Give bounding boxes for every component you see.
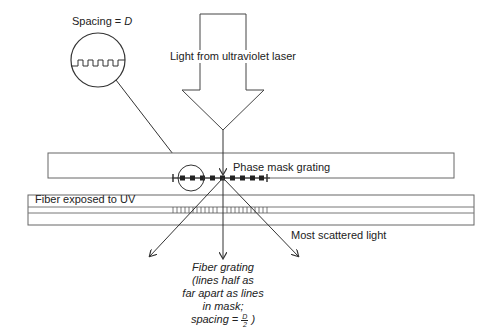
laser-label: Light from ultraviolet laser — [170, 50, 296, 63]
scattered-light-label: Most scattered light — [291, 229, 386, 242]
caption-close-paren: ) — [251, 313, 255, 325]
spacing-label: Spacing = D — [72, 15, 132, 28]
spacing-text: Spacing = — [72, 15, 124, 27]
caption-line-2: (lines half as — [170, 274, 276, 287]
caption-line-1: Fiber grating — [170, 261, 276, 274]
magnifier-circle — [71, 33, 125, 87]
fraction: D2 — [241, 313, 248, 328]
laser-arrow — [182, 14, 264, 130]
caption-line-4: in mask; — [170, 300, 276, 313]
fraction-denominator: 2 — [241, 321, 248, 328]
caption-line-3: far apart as lines — [170, 287, 276, 300]
caption-line-5: spacing = D2 ) — [170, 313, 276, 328]
phase-mask-label: Phase mask grating — [233, 161, 330, 174]
fiber-label: Fiber exposed to UV — [35, 193, 135, 206]
light-beams — [150, 130, 298, 258]
spacing-variable: D — [124, 15, 132, 27]
caption-spacing-text: spacing = — [191, 313, 241, 325]
fraction-numerator: D — [241, 313, 248, 321]
fiber-grating-caption: Fiber grating (lines half as far apart a… — [170, 261, 276, 328]
